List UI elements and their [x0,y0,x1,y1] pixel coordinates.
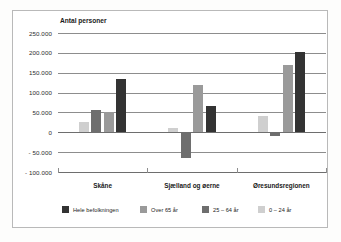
bar [258,116,268,132]
zero-line [58,132,326,133]
legend-swatch-icon [258,206,265,213]
gridline [58,53,326,54]
bar [295,52,305,132]
bar [79,122,89,133]
y-tick-label: 200.000 [14,49,52,56]
category-label: Skåne [58,182,147,189]
axis-group-tick [237,168,238,173]
legend-swatch-icon [202,206,209,213]
bar [270,132,280,136]
legend-label: 0 – 24 år [269,207,292,213]
bar [91,110,101,132]
legend-item[interactable]: Over 65 år [140,203,178,216]
bar [193,85,203,132]
axis-group-tick [147,168,148,173]
bar [283,65,293,132]
bar [206,106,216,133]
bar [104,112,114,132]
bar [181,132,191,158]
legend-item[interactable]: 25 – 64 år [202,203,239,216]
y-tick-label: 250.000 [14,30,52,37]
y-tick-label: 150.000 [14,69,52,76]
y-tick-label: 0 [14,129,52,136]
legend-item[interactable]: Hele befolkningen [62,203,119,216]
gridline [58,152,326,153]
category-label: Sjælland og øerne [147,182,236,189]
axis-group-tick [58,168,59,173]
legend-label: Hele befolkningen [73,207,119,213]
gridline [58,33,326,34]
legend-swatch-icon [62,206,69,213]
axis-baseline [58,172,326,173]
bar [116,79,126,133]
y-axis-title: Antal personer [60,17,107,24]
legend-item[interactable]: 0 – 24 år [258,203,292,216]
chart-legend: Hele befolkningenOver 65 år25 – 64 år0 –… [62,203,312,216]
y-tick-label: 100.000 [14,89,52,96]
bar [168,128,178,132]
legend-label: Over 65 år [151,207,178,213]
legend-swatch-icon [140,206,147,213]
category-label: Øresundsregionen [237,182,326,189]
axis-group-tick [326,168,327,173]
y-tick-label: - 50.000 [14,149,52,156]
legend-label: 25 – 64 år [213,207,239,213]
y-tick-label: - 100.000 [14,169,52,176]
y-tick-label: 50.000 [14,109,52,116]
